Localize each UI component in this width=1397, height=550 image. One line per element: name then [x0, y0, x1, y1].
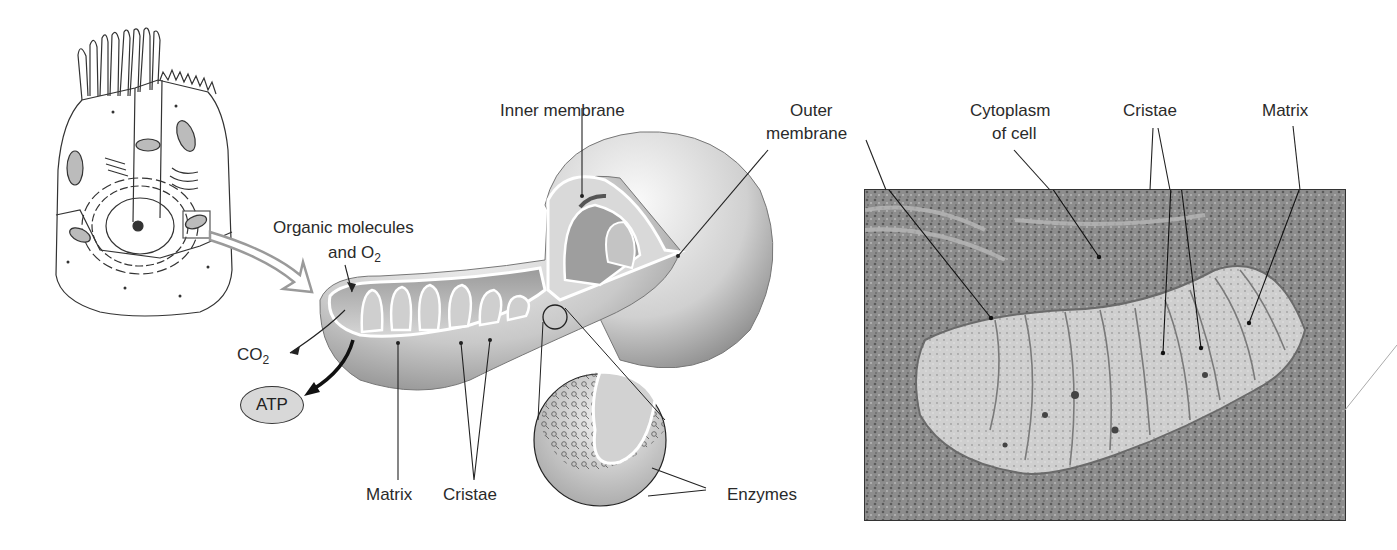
- label-cytoplasm-1: Cytoplasm: [970, 101, 1050, 121]
- micrograph-leader-lines: [0, 0, 1397, 550]
- label-cristae-micrograph: Cristae: [1123, 101, 1177, 121]
- label-cytoplasm-2: of cell: [992, 124, 1036, 144]
- label-matrix-micrograph: Matrix: [1262, 101, 1308, 121]
